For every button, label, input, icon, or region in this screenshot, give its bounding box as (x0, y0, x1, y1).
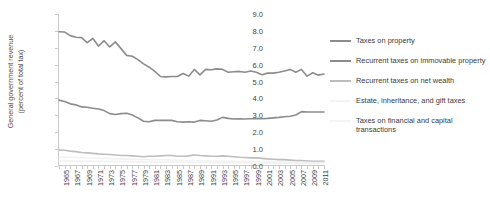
x-tick-label: 1993 (220, 170, 229, 186)
x-tick-mark (177, 166, 178, 169)
x-tick-mark (268, 166, 269, 169)
x-tick-mark (189, 166, 190, 169)
legend-item[interactable]: Estate, inheritance, and gift taxes (330, 96, 488, 107)
x-tick-label: 1967 (73, 170, 82, 186)
x-tick-mark (273, 166, 274, 169)
legend-item-label: Recurrent taxes on net wealth (356, 76, 488, 85)
x-tick-label: 1969 (85, 170, 94, 186)
x-tick-label: 2007 (299, 170, 308, 186)
x-tick-mark (194, 166, 195, 169)
x-tick-mark (127, 166, 128, 169)
legend-item-label: Recurrent taxes on immovable property (356, 56, 488, 65)
x-tick-mark (324, 166, 325, 169)
legend-line-icon (330, 40, 351, 42)
x-tick-mark (144, 166, 145, 169)
x-tick-mark (217, 166, 218, 169)
chart-legend: Taxes on propertyRecurrent taxes on immo… (330, 36, 488, 144)
y-axis-title-wrap: General government revenue (percent of t… (0, 0, 26, 172)
legend-line-icon (330, 60, 351, 62)
series-line (59, 32, 324, 77)
legend-item-label: Taxes on property (356, 36, 488, 45)
x-tick-label: 1987 (186, 170, 195, 186)
x-tick-mark (65, 166, 66, 169)
x-tick-mark (93, 166, 94, 169)
legend-item[interactable]: Recurrent taxes on immovable property (330, 56, 488, 67)
x-tick-mark (155, 166, 156, 169)
x-tick-mark (183, 166, 184, 169)
y-axis-title: General government revenue (percent of t… (6, 7, 25, 157)
x-tick-label: 1981 (152, 170, 161, 186)
x-tick-mark (138, 166, 139, 169)
legend-line-icon (330, 80, 351, 82)
x-tick-mark (132, 166, 133, 169)
x-tick-label: 1999 (254, 170, 263, 186)
x-tick-mark (313, 166, 314, 169)
x-tick-mark (110, 166, 111, 169)
x-tick-mark (211, 166, 212, 169)
x-tick-mark (234, 166, 235, 169)
x-tick-label: 2001 (265, 170, 274, 186)
x-tick-label: 1983 (163, 170, 172, 186)
x-tick-mark (290, 166, 291, 169)
legend-item[interactable]: Recurrent taxes on net wealth (330, 76, 488, 87)
legend-item[interactable]: Taxes on financial and capital transacti… (330, 116, 488, 135)
x-tick-mark (98, 166, 99, 169)
plot-area: 0.01.02.03.04.05.06.07.08.09.0 196519671… (58, 14, 325, 166)
x-tick-label: 1997 (242, 170, 251, 186)
x-tick-label: 2009 (310, 170, 319, 186)
x-tick-mark (87, 166, 88, 169)
x-tick-mark (285, 166, 286, 169)
x-tick-mark (206, 166, 207, 169)
x-tick-mark (318, 166, 319, 169)
line-chart: General government revenue (percent of t… (0, 0, 490, 207)
legend-line-icon (330, 120, 351, 122)
x-tick-label: 1973 (107, 170, 116, 186)
x-tick-mark (296, 166, 297, 169)
legend-item-label: Taxes on financial and capital transacti… (356, 116, 488, 135)
x-tick-mark (262, 166, 263, 169)
x-tick-mark (301, 166, 302, 169)
x-tick-mark (172, 166, 173, 169)
x-tick-label: 1979 (141, 170, 150, 186)
y-tick-mark (55, 166, 58, 167)
x-tick-mark (245, 166, 246, 169)
x-tick-label: 1989 (197, 170, 206, 186)
x-tick-mark (251, 166, 252, 169)
x-tick-mark (307, 166, 308, 169)
legend-line-icon (330, 100, 351, 102)
x-tick-mark (160, 166, 161, 169)
x-tick-mark (70, 166, 71, 169)
x-tick-mark (200, 166, 201, 169)
x-tick-mark (166, 166, 167, 169)
x-tick-mark (59, 166, 60, 169)
x-tick-label: 1977 (130, 170, 139, 186)
x-tick-mark (121, 166, 122, 169)
x-tick-mark (239, 166, 240, 169)
x-tick-label: 2011 (321, 170, 330, 185)
x-tick-mark (256, 166, 257, 169)
x-tick-mark (82, 166, 83, 169)
x-tick-mark (149, 166, 150, 169)
legend-item-label: Estate, inheritance, and gift taxes (356, 96, 488, 105)
series-line (59, 100, 324, 122)
legend-item[interactable]: Taxes on property (330, 36, 488, 47)
x-tick-mark (115, 166, 116, 169)
x-tick-mark (279, 166, 280, 169)
x-tick-label: 1965 (62, 170, 71, 186)
series-lines (58, 14, 325, 166)
x-tick-mark (223, 166, 224, 169)
x-tick-label: 1985 (175, 170, 184, 186)
x-tick-label: 1995 (231, 170, 240, 186)
x-tick-label: 1975 (118, 170, 127, 186)
x-tick-label: 1991 (209, 170, 218, 186)
x-tick-label: 2003 (276, 170, 285, 186)
series-line (59, 150, 324, 161)
x-tick-mark (228, 166, 229, 169)
x-tick-mark (104, 166, 105, 169)
x-tick-label: 2005 (288, 170, 297, 186)
x-tick-mark (76, 166, 77, 169)
x-tick-label: 1971 (96, 170, 105, 186)
